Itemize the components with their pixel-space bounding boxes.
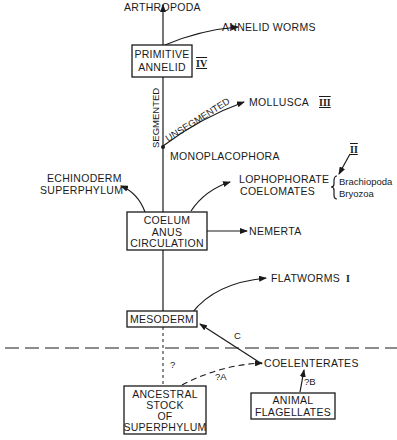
arrow-to-lophophorate	[191, 182, 230, 211]
roman-i: I	[346, 273, 350, 284]
label-monoplacophora: MONOPLACOPHORA	[170, 150, 280, 162]
phylogeny-diagram: ARTHROPODA ANNELID WORMS PRIMITIVE ANNEL…	[0, 0, 397, 440]
label-superphylum-box: SUPERPHYLUM	[123, 421, 206, 433]
label-bryozoa: Bryozoa	[339, 188, 375, 199]
roman-ii: II	[350, 144, 358, 155]
roman-iv: IV	[196, 58, 208, 69]
monoplacophora-node	[161, 145, 165, 149]
roman-iii: III	[319, 97, 331, 108]
label-superphylum: SUPERPHYLUM	[40, 184, 123, 196]
label-brachiopoda: Brachiopoda	[339, 176, 393, 187]
label-nemerta: NEMERTA	[249, 225, 301, 237]
label-lophophorate: LOPHOPHORATE	[239, 173, 329, 185]
label-primitive: PRIMITIVE	[134, 48, 189, 60]
label-qa: ?A	[215, 371, 227, 382]
arrow-c-to-mesoderm	[200, 324, 262, 364]
label-circulation: CIRCULATION	[130, 237, 204, 249]
label-annelid-worms: ANNELID WORMS	[222, 21, 316, 33]
label-c: C	[234, 330, 241, 341]
label-qb: ?B	[304, 376, 316, 387]
arrow-to-echinoderm	[121, 186, 145, 212]
label-segmented: SEGMENTED	[150, 88, 161, 148]
label-annelid: ANNELID	[138, 61, 186, 73]
label-mesoderm: MESODERM	[130, 313, 194, 325]
label-coelenterates: COELENTERATES	[264, 357, 359, 369]
label-coelum: COELUM	[144, 214, 191, 226]
label-flatworms: FLATWORMS	[271, 272, 340, 284]
label-flagellates: FLAGELLATES	[255, 406, 331, 418]
label-arthropoda: ARTHROPODA	[124, 1, 201, 13]
arrow-to-flatworms	[192, 278, 266, 313]
brace	[331, 176, 337, 199]
label-echinoderm: ECHINODERM	[47, 172, 122, 184]
label-mollusca: MOLLUSCA	[249, 96, 309, 108]
arrow-ii	[339, 154, 350, 174]
label-coelomates: COELOMATES	[240, 185, 315, 197]
label-question: ?	[170, 359, 175, 370]
label-unsegmented: UNSEGMENTED	[163, 95, 232, 144]
label-animal: ANIMAL	[273, 394, 314, 406]
